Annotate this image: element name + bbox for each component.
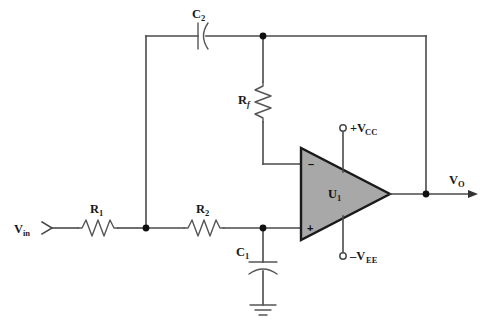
c1-label-base: C [236,245,245,259]
r2-branch [146,220,301,236]
rf-label-subscript: f [247,99,251,109]
vin-arrow-icon [42,222,52,234]
c1-ground-branch [249,228,277,315]
component-labels: V in V O R 1 R 2 R f C 1 C 2 [14,7,465,261]
opamp-u1[interactable]: – + U 1 [301,148,390,240]
opamp-inverting-pin-label: – [308,158,314,170]
junction-dots [143,33,430,232]
opamp-label-base: U [328,187,337,201]
junction-node-c1 [260,225,267,232]
opamp-u1-triangle[interactable] [301,148,390,240]
vin-label-subscript: in [23,228,30,238]
opamp-label-subscript: 1 [337,193,341,203]
r1-label-subscript: 1 [99,208,103,218]
circuit-diagram: – + U 1 +V CC –V EE V in V O [0,0,488,331]
c1-label-subscript: 1 [245,251,249,261]
vee-label-base: –V [349,249,365,263]
r2-label-subscript: 2 [205,208,209,218]
vcc-label-base: +V [350,121,366,135]
c2-feedback-branch [146,23,263,228]
vin-label-base: V [14,222,23,236]
resistor-r2-body [184,220,224,236]
resistor-r1-body [78,220,118,236]
vee-label-subscript: EE [366,255,378,265]
vo-label-base: V [449,173,458,187]
vo-label-subscript: O [458,179,465,189]
vcc-label-subscript: CC [365,127,377,137]
junction-node-input [143,225,150,232]
input-branch [42,220,146,236]
junction-node-output [423,191,430,198]
resistor-rf-body [255,82,271,122]
junction-node-rf-top [260,33,267,40]
supply-terminal-vee[interactable] [340,253,346,259]
output-branch [390,190,478,198]
c2-label-base: C [192,7,201,21]
c2-label-subscript: 2 [201,13,205,23]
rf-branch [255,36,301,164]
vo-arrow-icon [468,190,478,198]
supply-terminal-vcc[interactable] [340,125,346,131]
opamp-noninverting-pin-label: + [307,222,313,234]
schematic-canvas: – + U 1 +V CC –V EE V in V O [0,0,488,331]
